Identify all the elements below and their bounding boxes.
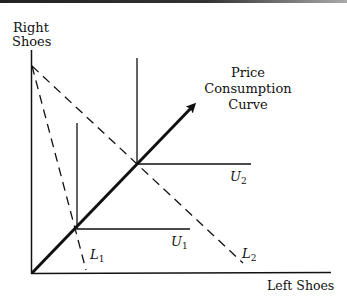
y-axis-label-line1: Right bbox=[13, 20, 50, 35]
l1-label: L1 bbox=[89, 247, 104, 264]
curve-label-line1: Price bbox=[231, 65, 265, 80]
l2-label: L2 bbox=[241, 246, 256, 263]
u1-label: U1 bbox=[171, 234, 188, 251]
x-axis-label: Left Shoes bbox=[267, 278, 334, 293]
u2-label: U2 bbox=[230, 169, 247, 186]
x-axis bbox=[31, 273, 331, 274]
diagram-canvas: Right Shoes Left Shoes Price Consumption… bbox=[0, 0, 347, 302]
budget-line-l1 bbox=[32, 66, 86, 270]
price-consumption-curve-arrow bbox=[32, 105, 194, 273]
curve-label-line3: Curve bbox=[228, 97, 268, 112]
curve-label-line2: Consumption bbox=[204, 81, 292, 96]
y-axis-label-line2: Shoes bbox=[12, 34, 51, 49]
indifference-curve-u1 bbox=[77, 123, 190, 229]
